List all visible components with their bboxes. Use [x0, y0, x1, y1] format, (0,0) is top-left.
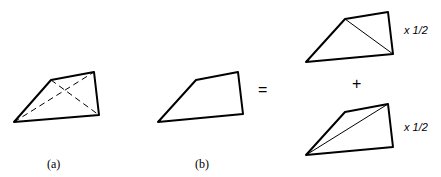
label-b: (b) — [195, 157, 209, 171]
panel-a: (a) — [14, 72, 99, 171]
factor-bottom: x 1/2 — [403, 121, 428, 133]
equals-sign: = — [258, 81, 267, 98]
quad-top-diagonal — [345, 19, 393, 54]
plus-sign: + — [352, 75, 361, 92]
decomposition-bottom: x 1/2 — [306, 104, 428, 155]
quad-b-outline — [158, 72, 243, 122]
diagram-canvas: (a) (b) = x 1/2 + x 1/2 — [0, 0, 441, 177]
quad-a-diagonal-2 — [51, 80, 99, 115]
label-a: (a) — [47, 157, 60, 171]
decomposition-top: x 1/2 — [306, 12, 428, 62]
factor-top: x 1/2 — [403, 24, 428, 36]
quad-top-outline — [306, 12, 393, 62]
panel-b: (b) — [158, 72, 243, 171]
